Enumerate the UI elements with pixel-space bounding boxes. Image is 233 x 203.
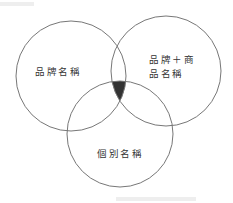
triple-intersection-region	[67, 81, 173, 187]
cropped-caption-top	[0, 2, 34, 6]
label-brand-plus-product-line2: 品名稱	[149, 67, 184, 80]
label-individual-name: 個別名稱	[97, 147, 143, 160]
label-brand-plus-product-line1: 品牌＋商	[149, 53, 195, 66]
venn-svg	[0, 0, 233, 203]
cropped-caption-bottom	[116, 197, 196, 201]
venn-diagram: 品牌名稱 品牌＋商 品名稱 個別名稱	[0, 0, 233, 203]
label-brand-name: 品牌名稱	[35, 65, 81, 78]
